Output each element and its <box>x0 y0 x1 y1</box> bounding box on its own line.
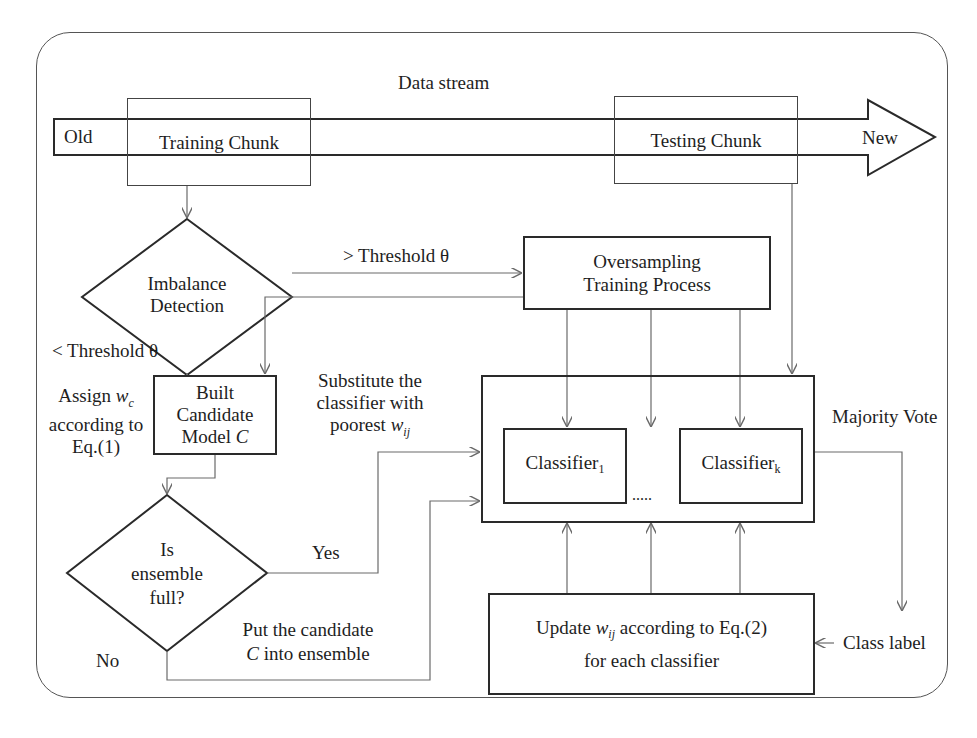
arrow-overlay <box>0 0 977 738</box>
